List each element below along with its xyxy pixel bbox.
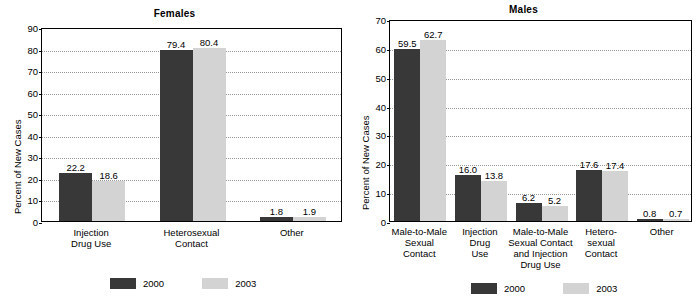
legend-item-2000: 2000 xyxy=(471,283,525,294)
y-axis-tickmark xyxy=(387,21,390,22)
x-axis-category-label: Other xyxy=(623,226,698,237)
plot-area-males: 01020304050607059.562.716.013.86.25.217.… xyxy=(389,20,692,222)
y-axis-tick-label: 10 xyxy=(27,197,38,207)
bar-2003-1 xyxy=(481,181,507,221)
x-axis-category-label: InjectionDrug Use xyxy=(33,227,149,249)
bar-2000-2 xyxy=(516,203,542,221)
x-axis-category-line: sexual xyxy=(563,237,640,248)
y-axis-tick-label: 80 xyxy=(27,46,38,56)
y-axis-tickmark xyxy=(39,72,42,73)
y-axis-tick-label: 20 xyxy=(27,175,38,185)
chart-title-females: Females xyxy=(0,8,349,19)
plot-area-females: 010203040506070809022.218.679.480.41.81.… xyxy=(41,28,342,222)
bar-2003-2 xyxy=(293,217,326,221)
x-axis-category-line: Other xyxy=(623,226,698,237)
y-axis-tickmark xyxy=(39,158,42,159)
chart-panel-males: Males Percent of New Cases 0102030405060… xyxy=(349,0,698,307)
legend-label-2000: 2000 xyxy=(504,283,525,294)
y-axis-tickmark xyxy=(387,79,390,80)
y-axis-tickmark xyxy=(387,223,390,224)
y-axis-tick-label: 50 xyxy=(375,74,386,84)
legend-swatch-2003 xyxy=(202,278,228,289)
legend-swatch-2000 xyxy=(110,278,136,289)
y-axis-tickmark xyxy=(39,94,42,95)
bar-value-label: 18.6 xyxy=(86,171,131,181)
y-axis-tick-label: 60 xyxy=(27,89,38,99)
y-axis-tick-label: 40 xyxy=(27,132,38,142)
y-axis-tickmark xyxy=(39,51,42,52)
x-axis-category-label: Other xyxy=(234,227,350,238)
y-axis-tick-label: 60 xyxy=(375,45,386,55)
y-axis-tickmark xyxy=(387,108,390,109)
bar-value-label: 13.8 xyxy=(475,171,513,181)
y-axis-tick-label: 30 xyxy=(375,132,386,142)
legend-males: 2000 2003 xyxy=(471,283,617,294)
legend-item-2000: 2000 xyxy=(110,278,164,289)
y-axis-label-males: Percent of New Cases xyxy=(360,115,371,210)
y-axis-tick-label: 20 xyxy=(375,161,386,171)
x-axis-category-line: Other xyxy=(234,227,350,238)
y-axis-tick-label: 40 xyxy=(375,103,386,113)
bar-2000-4 xyxy=(637,219,663,221)
legend-label-2003: 2003 xyxy=(235,278,256,289)
bar-2003-4 xyxy=(663,219,689,221)
x-axis-category-line: Heterosexual xyxy=(133,227,249,238)
x-axis-category-line: Contact xyxy=(563,248,640,259)
x-axis-category-line: Drug Use xyxy=(502,259,579,270)
y-axis-label-females: Percent of New Cases xyxy=(12,119,23,214)
bar-value-label: 62.7 xyxy=(414,30,452,40)
bar-value-label: 17.4 xyxy=(596,161,634,171)
legend-females: 2000 2003 xyxy=(110,278,256,289)
bar-2000-1 xyxy=(160,50,193,221)
y-axis-tick-label: 50 xyxy=(27,110,38,120)
bar-2000-2 xyxy=(260,217,293,221)
legend-item-2003: 2003 xyxy=(202,278,256,289)
y-axis-tick-label: 70 xyxy=(27,67,38,77)
legend-swatch-2000 xyxy=(471,283,497,294)
y-axis-tickmark xyxy=(39,137,42,138)
legend-label-2003: 2003 xyxy=(596,283,617,294)
y-axis-tickmark xyxy=(387,50,390,51)
bar-value-label: 80.4 xyxy=(187,38,232,48)
y-axis-tickmark xyxy=(387,136,390,137)
y-axis-tick-label: 70 xyxy=(375,16,386,26)
x-axis-category-label: HeterosexualContact xyxy=(133,227,249,249)
bar-2003-1 xyxy=(193,48,226,221)
x-axis-category-line: Contact xyxy=(133,238,249,249)
y-axis-tickmark xyxy=(39,201,42,202)
bar-value-label: 0.7 xyxy=(657,209,695,219)
y-axis-tickmark xyxy=(39,29,42,30)
y-axis-tickmark xyxy=(39,115,42,116)
bar-2000-1 xyxy=(455,175,481,221)
y-axis-tickmark xyxy=(39,180,42,181)
chart-panel-females: Females Percent of New Cases 01020304050… xyxy=(0,0,349,307)
y-axis-tickmark xyxy=(387,165,390,166)
bar-2003-3 xyxy=(602,171,628,221)
legend-swatch-2003 xyxy=(563,283,589,294)
x-axis-category-line: Injection xyxy=(33,227,149,238)
bar-value-label: 5.2 xyxy=(536,196,574,206)
y-axis-tick-label: 30 xyxy=(27,154,38,164)
bar-value-label: 1.9 xyxy=(287,207,332,217)
bar-2003-0 xyxy=(420,40,446,221)
bar-2000-0 xyxy=(394,49,420,221)
bar-2003-0 xyxy=(92,181,125,221)
bar-2000-3 xyxy=(576,170,602,221)
figure-root: Females Percent of New Cases 01020304050… xyxy=(0,0,698,307)
y-axis-tickmark xyxy=(39,223,42,224)
y-axis-tick-label: 90 xyxy=(27,24,38,34)
y-axis-tickmark xyxy=(387,194,390,195)
chart-title-males: Males xyxy=(349,4,698,15)
y-axis-tick-label: 10 xyxy=(375,189,386,199)
x-axis-category-line: Drug Use xyxy=(33,238,149,249)
legend-label-2000: 2000 xyxy=(143,278,164,289)
bar-2003-2 xyxy=(542,206,568,221)
legend-item-2003: 2003 xyxy=(563,283,617,294)
